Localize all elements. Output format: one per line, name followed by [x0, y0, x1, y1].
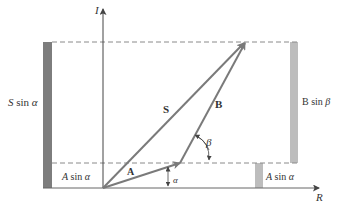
- alpha-label: α: [173, 175, 178, 185]
- b-sin-beta-bar: [290, 42, 298, 163]
- vector-b-label: B: [215, 98, 223, 110]
- vector-s: [103, 43, 244, 188]
- vector-diagram: I R S sin α A sin α A sin α B sin β S B …: [0, 0, 345, 210]
- s-sin-alpha-label: S sin α: [8, 96, 38, 108]
- vector-b: [180, 43, 245, 163]
- vector-a-label: A: [127, 166, 135, 177]
- beta-label: β: [205, 136, 212, 148]
- i-axis-label: I: [94, 4, 100, 16]
- vector-s-label: S: [163, 103, 169, 115]
- s-sin-alpha-bar: [43, 42, 52, 188]
- a-sin-alpha-left-label: A sin α: [61, 171, 91, 182]
- a-sin-alpha-right-label: A sin α: [265, 171, 295, 182]
- b-sin-beta-label: B sin β: [302, 96, 330, 107]
- r-axis-label: R: [315, 191, 323, 203]
- a-sin-alpha-bar: [255, 163, 263, 188]
